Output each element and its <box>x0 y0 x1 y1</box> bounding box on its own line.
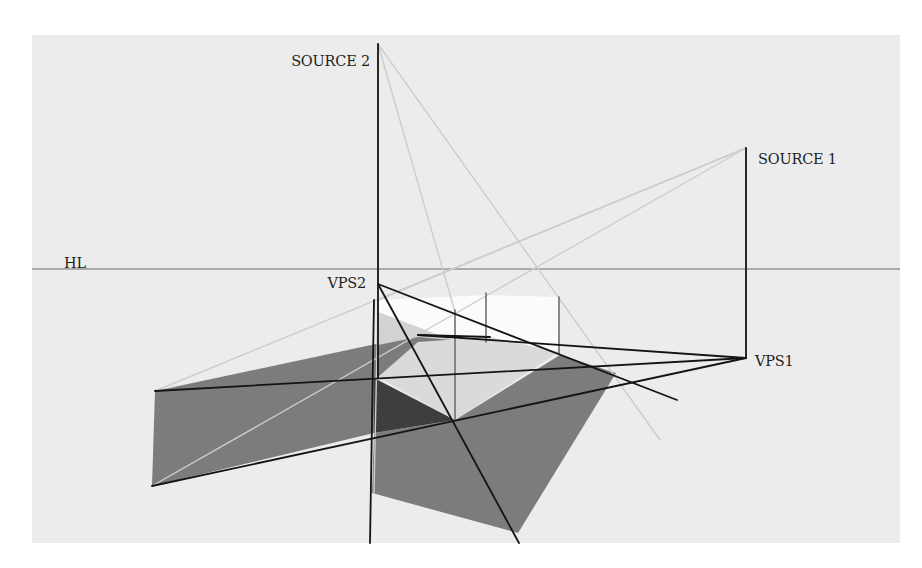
horizon-line-label: HL <box>64 255 86 271</box>
source1-label: SOURCE 1 <box>758 151 837 167</box>
source2-label: SOURCE 2 <box>291 53 370 69</box>
perspective-shadow-diagram: SOURCE 2 SOURCE 1 HL VPS2 VPS1 <box>0 0 922 568</box>
vps1-label: VPS1 <box>754 353 794 369</box>
diagram-canvas: SOURCE 2 SOURCE 1 HL VPS2 VPS1 <box>0 0 922 568</box>
vps2-label: VPS2 <box>326 275 366 291</box>
